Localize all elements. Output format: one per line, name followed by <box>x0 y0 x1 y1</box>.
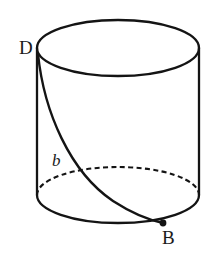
point-marker-B <box>160 220 167 227</box>
vertex-label-B: B <box>162 228 175 247</box>
vertex-label-D: D <box>19 38 33 57</box>
top-ellipse <box>37 20 199 76</box>
cylinder-figure: D b B <box>0 0 212 266</box>
curve-length-label-b: b <box>52 152 61 169</box>
